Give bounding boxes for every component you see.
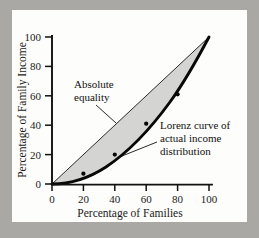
y-tick-label-60: 60 <box>30 90 42 102</box>
y-tick-label-40: 40 <box>30 119 42 131</box>
y-tick-label-0: 0 <box>36 178 42 190</box>
lorenz-label-line1: Lorenz curve of <box>160 119 231 131</box>
data-marker <box>144 122 148 126</box>
data-marker <box>176 92 180 96</box>
data-marker <box>113 153 117 157</box>
lorenz-curve-chart: 0 20 40 60 80 100 0 20 40 60 80 100 Perc… <box>12 10 247 222</box>
y-tick-label-100: 100 <box>25 31 42 43</box>
data-marker <box>81 172 85 176</box>
y-tick-label-20: 20 <box>30 149 42 161</box>
x-tick-label-40: 40 <box>109 193 121 205</box>
x-tick-label-80: 80 <box>172 193 184 205</box>
x-axis-title: Percentage of Families <box>77 207 183 220</box>
y-axis-title: Percentage of Family Income <box>16 42 29 178</box>
lorenz-label-line3: distribution <box>160 145 211 157</box>
absolute-equality-leader-line <box>96 105 116 123</box>
x-tick-label-100: 100 <box>201 193 218 205</box>
lorenz-label-line2: actual income <box>160 132 222 144</box>
y-tick-label-80: 80 <box>30 60 42 72</box>
figure-card: 0 20 40 60 80 100 0 20 40 60 80 100 Perc… <box>12 10 247 222</box>
absolute-equality-line <box>52 37 209 184</box>
x-tick-label-20: 20 <box>78 193 90 205</box>
absolute-equality-label-line2: equality <box>74 91 110 103</box>
absolute-equality-label-line1: Absolute <box>74 78 114 90</box>
x-tick-label-60: 60 <box>141 193 153 205</box>
x-tick-label-0: 0 <box>49 193 55 205</box>
